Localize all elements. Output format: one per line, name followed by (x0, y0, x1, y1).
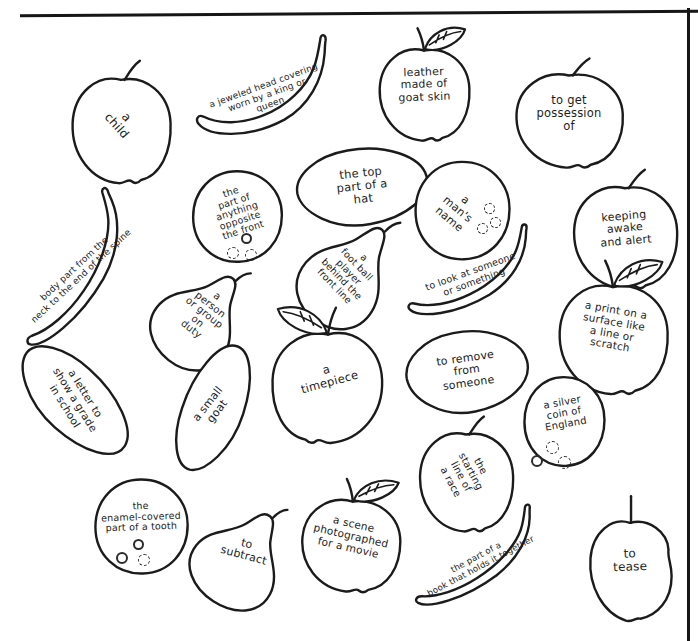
page-border-right (687, 8, 690, 641)
dimple-mark (133, 539, 144, 550)
fruit-timepiece-apple: a timepiece (262, 305, 394, 447)
page-border-top (20, 10, 698, 18)
clue-text: the enamel-covered part of a tooth (101, 500, 182, 535)
dimple-mark (546, 441, 559, 454)
fruit-leather-apple: leather made of goat skin (370, 26, 478, 144)
worksheet-page: a child a jeweled head covering worn by … (0, 0, 698, 641)
fruit-movie-apple: a scene photographed for a movie (289, 474, 413, 598)
fruit-tease-apple: to tease (578, 495, 682, 627)
dimple-mark (490, 217, 501, 228)
clue-text: to tease (613, 547, 648, 575)
clue-text: leather made of goat skin (397, 66, 450, 105)
dimple-mark (531, 455, 543, 467)
fruit-grade-lemon: a letter to show a grade in school (0, 316, 157, 483)
clue-text: to get possession of (537, 94, 602, 133)
fruit-coin-orange: a silver coin of England (518, 370, 610, 472)
dimple-mark (241, 233, 252, 244)
dimple-mark (138, 554, 150, 566)
fruit-possession-apple: to get possession of (505, 55, 633, 171)
dimple-mark (116, 552, 128, 564)
dimple-mark (484, 203, 495, 214)
fruit-child-apple: a child (62, 57, 180, 187)
fruit-crown-banana: a jeweled head covering worn by a king o… (178, 30, 354, 153)
clue-text: keeping awake and alert (598, 208, 652, 249)
clue-text: a silver coin of England (540, 393, 587, 433)
